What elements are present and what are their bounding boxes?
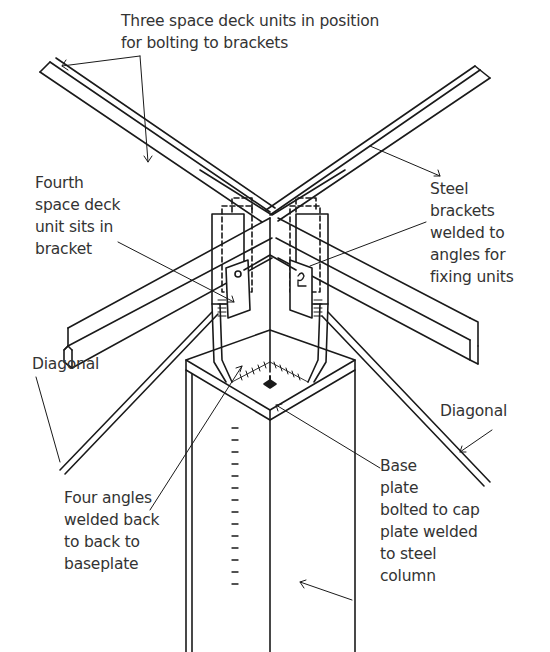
diagram-canvas: Three space deck units in position for b… <box>0 0 550 652</box>
label-steel-brackets: Steel brackets welded to angles for fixi… <box>430 178 514 288</box>
label-four-angles: Four angles welded back to back to basep… <box>64 487 159 575</box>
label-three-space-deck-units: Three space deck units in position for b… <box>121 10 379 54</box>
label-diagonal-right: Diagonal <box>440 400 507 422</box>
bracket-left <box>212 198 252 318</box>
label-base-plate: Base plate bolted to cap plate welded to… <box>380 455 480 587</box>
bracket-right <box>290 198 328 318</box>
label-fourth-space-deck-unit: Fourth space deck unit sits in bracket <box>35 172 120 260</box>
diagonal-left <box>60 312 218 474</box>
label-diagonal-left: Diagonal <box>32 353 99 375</box>
